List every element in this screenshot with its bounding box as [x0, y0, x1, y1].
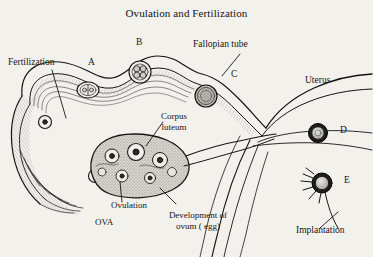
stage-marker-b: B: [136, 38, 142, 48]
stage-marker-c: C: [231, 70, 237, 80]
label-development-line2: ovum ( egg): [152, 222, 244, 231]
leader-lines: [52, 54, 338, 228]
label-ova: OVA: [95, 218, 113, 227]
figure-canvas: Ovulation and Fertilization Fertilizatio…: [0, 0, 373, 257]
stage-c-morula: [195, 85, 217, 107]
stage-marker-e: E: [344, 176, 350, 186]
stage-marker-a: A: [88, 58, 95, 68]
label-corpus-luteum-line1: Corpus: [146, 112, 202, 121]
stage-a-ovum: [77, 82, 99, 98]
label-fertilization: Fertilization: [8, 58, 54, 68]
stage-d-blastocyst: [309, 124, 328, 143]
label-corpus-luteum-line2: luteum: [146, 123, 202, 132]
label-fallopian-tube: Fallopian tube: [193, 40, 248, 50]
ovarian-ligament: [184, 134, 276, 166]
label-development-line1: Development of: [152, 211, 244, 220]
stage-b-embryo: [129, 61, 151, 83]
label-ovulation: Ovulation: [111, 201, 147, 210]
fimbriae: [11, 96, 83, 214]
ovary: [91, 134, 189, 198]
stage-marker-d: D: [340, 126, 347, 136]
label-implantation: Implantation: [296, 226, 345, 236]
figure-title: Ovulation and Fertilization: [0, 8, 373, 20]
stage-e-implantation: [301, 168, 338, 228]
label-uterus: Uterus: [305, 76, 330, 86]
